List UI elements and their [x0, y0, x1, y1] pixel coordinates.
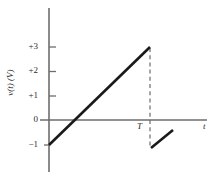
y-axis-title: v(t) (V) — [6, 60, 15, 106]
y-tick-label-plus3: +3 — [12, 42, 38, 51]
ramp-segment-second-period — [151, 130, 173, 148]
y-tick-label-plus2: +2 — [12, 66, 38, 75]
waveform-figure: +3 +2 +1 0 −1 T t v(t) (V) — [0, 0, 221, 179]
x-axis-title: t — [203, 122, 206, 131]
y-tick-label-plus1: +1 — [12, 91, 38, 100]
y-tick-label-minus1: −1 — [12, 140, 38, 149]
x-tick-label-period: T — [137, 122, 142, 131]
ramp-segment-first-period — [49, 47, 150, 145]
y-tick-label-zero: 0 — [12, 115, 38, 124]
